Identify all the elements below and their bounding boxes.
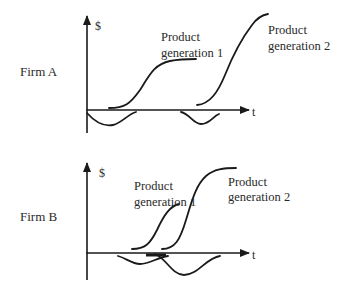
y-axis-label-firm-a: $ — [95, 19, 101, 33]
firm-a-label: Firm A — [20, 64, 58, 79]
gen1-label-line1-firm-a: Product — [161, 30, 200, 44]
y-axis-label-firm-b: $ — [99, 166, 105, 180]
gen2-investment-curve-firm-a — [181, 112, 219, 124]
gen2-label-line1-firm-b: Product — [228, 175, 267, 189]
x-axis-label-firm-a: t — [252, 105, 256, 119]
gen1-label-line2-firm-a: generation 1 — [161, 46, 223, 60]
panel-firm-b: Firm B $ t Product generation 1 Product … — [20, 163, 290, 280]
gen2-label-line2-firm-b: generation 2 — [228, 190, 290, 204]
firm-b-label: Firm B — [20, 209, 58, 224]
gen1-investment-curve-firm-a — [87, 112, 136, 125]
product-generation-diagram: Firm A $ t Product generation 1 Product … — [0, 0, 350, 296]
panel-firm-a: Firm A $ t Product generation 1 Product … — [20, 14, 330, 133]
gen2-label-line1-firm-a: Product — [268, 23, 307, 37]
gen2-label-line2-firm-a: generation 2 — [268, 39, 330, 53]
x-axis-label-firm-b: t — [252, 248, 256, 262]
gen1-revenue-curve-firm-a — [109, 59, 196, 108]
gen1-label-line2-firm-b: generation 1 — [134, 195, 196, 209]
gen1-revenue-curve-firm-b — [132, 204, 179, 249]
gen1-label-line1-firm-b: Product — [134, 179, 173, 193]
